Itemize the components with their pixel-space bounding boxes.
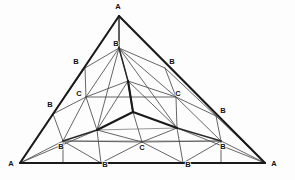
label-inner-right-b: B bbox=[220, 142, 226, 151]
edge-thin bbox=[165, 68, 216, 116]
edge-thin bbox=[119, 48, 176, 97]
edge-mid bbox=[119, 48, 128, 81]
edge-thin bbox=[85, 68, 86, 97]
edge-thin bbox=[221, 141, 265, 163]
label-base-right-b: B bbox=[185, 160, 191, 169]
edge-thin bbox=[177, 128, 183, 163]
label-inner-left-b: B bbox=[58, 142, 64, 151]
label-upper-right-b: B bbox=[169, 57, 175, 66]
label-right-c: C bbox=[175, 89, 181, 98]
label-apex-a: A bbox=[115, 2, 121, 11]
label-bottom-right-a: A bbox=[271, 159, 277, 168]
geometric-diagram: A A A B B B B B B B B B C C C bbox=[0, 0, 295, 180]
edge-thin bbox=[97, 130, 142, 142]
edge-thin bbox=[53, 114, 63, 141]
edge-thin bbox=[133, 112, 142, 142]
edge-thin bbox=[128, 81, 176, 97]
edge-thin bbox=[86, 97, 97, 130]
label-left-c: C bbox=[76, 89, 82, 98]
edge-faint bbox=[97, 128, 177, 130]
label-center-c: C bbox=[139, 143, 145, 152]
figure-canvas: A A A B B B B B B B B B C C C bbox=[0, 0, 295, 180]
label-bottom-left-a: A bbox=[8, 159, 14, 168]
edge-thin bbox=[176, 97, 177, 128]
edge-thin bbox=[86, 81, 128, 97]
edge-thin bbox=[142, 128, 177, 142]
edge-thin bbox=[142, 142, 183, 163]
label-upper-left-b: B bbox=[73, 57, 79, 66]
label-lower-left-b: B bbox=[47, 100, 53, 109]
edge-thin bbox=[86, 48, 119, 97]
label-base-left-b: B bbox=[102, 160, 108, 169]
label-lower-right-b: B bbox=[220, 106, 226, 115]
edge-thin bbox=[97, 130, 101, 163]
label-top-center-b: B bbox=[113, 39, 119, 48]
edge-thin bbox=[63, 141, 101, 163]
cube-edge-right bbox=[133, 112, 177, 128]
mid-edge-group bbox=[63, 16, 221, 141]
